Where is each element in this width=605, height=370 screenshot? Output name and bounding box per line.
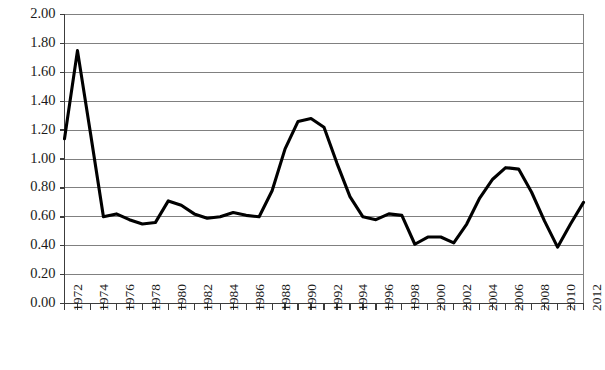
y-tick-label: 1.00	[30, 150, 55, 167]
data-line-series-1	[65, 51, 584, 248]
y-tick-label: 0.40	[30, 236, 55, 253]
y-tick-label: 1.20	[30, 121, 55, 138]
x-tick-label: 1988	[278, 284, 294, 311]
x-tick-label: 1986	[252, 284, 268, 311]
x-tick-label: 2012	[589, 284, 605, 311]
y-tick-label: 0.80	[30, 178, 55, 195]
y-tick-label: 0.20	[30, 265, 55, 282]
y-tick-label: 0.60	[30, 207, 55, 224]
x-tick-label: 1982	[200, 284, 216, 311]
x-tick-label: 2010	[563, 284, 579, 311]
y-tick-label: 1.80	[30, 34, 55, 51]
y-tick-label: 0.00	[30, 294, 55, 311]
x-tick-label: 2002	[459, 284, 475, 311]
x-tick-label: 1998	[407, 284, 423, 311]
x-tick-label: 1972	[70, 284, 86, 311]
x-tick-label: 1976	[122, 284, 138, 311]
x-tick-label: 1978	[148, 284, 164, 311]
x-axis-ticks	[65, 304, 584, 310]
x-tick-label: 1980	[174, 284, 190, 311]
x-tick-label: 2006	[511, 284, 527, 311]
x-tick-label: 1992	[330, 284, 346, 311]
x-tick-label: 1996	[381, 284, 397, 311]
y-tick-label: 1.40	[30, 92, 55, 109]
x-tick-label: 2000	[433, 284, 449, 311]
y-tick-label: 2.00	[30, 5, 55, 22]
x-tick-label: 2008	[537, 284, 553, 311]
x-tick-label: 1990	[304, 284, 320, 311]
x-tick-label: 1974	[96, 284, 112, 311]
x-tick-label: 2004	[485, 284, 501, 311]
x-tick-label: 1984	[226, 284, 242, 311]
x-tick-label: 1994	[355, 284, 371, 311]
gridlines	[65, 15, 584, 304]
y-tick-label: 1.60	[30, 63, 55, 80]
